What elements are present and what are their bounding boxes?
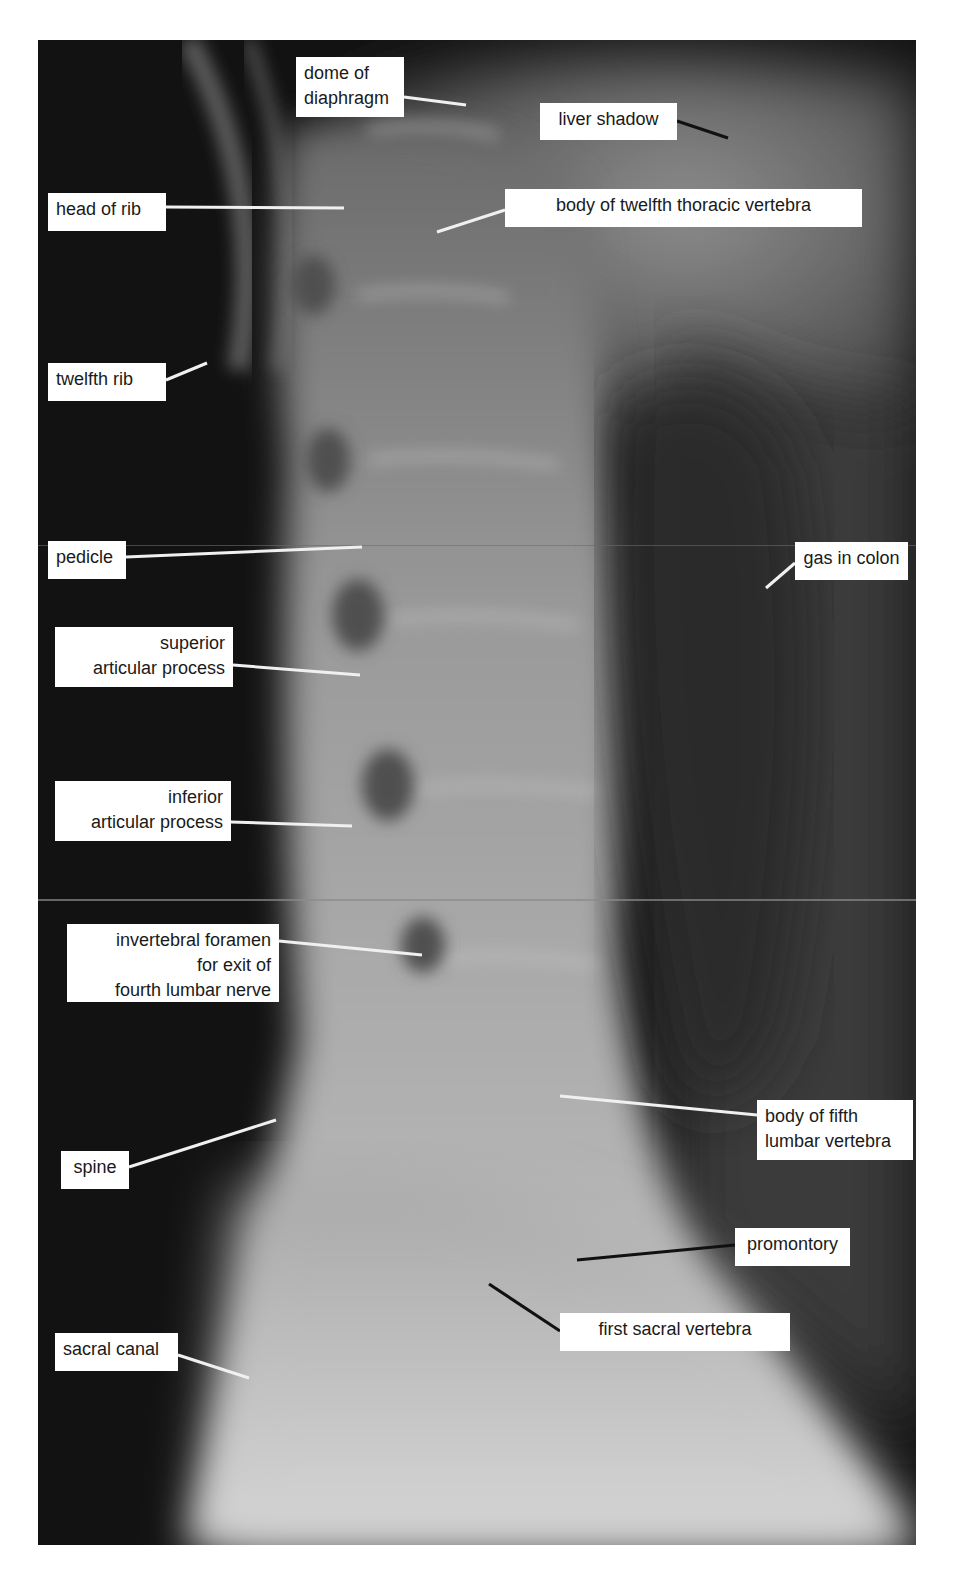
- label-twelfth-rib: twelfth rib: [48, 363, 166, 401]
- label-first-sacral-vertebra: first sacral vertebra: [560, 1313, 790, 1351]
- label-dome-of-diaphragm: dome of diaphragm: [296, 57, 404, 117]
- label-spine: spine: [61, 1151, 129, 1189]
- label-gas-in-colon: gas in colon: [795, 542, 908, 580]
- label-sacral-canal: sacral canal: [55, 1333, 178, 1371]
- label-body-of-fifth-lumbar-vertebra: body of fifth lumbar vertebra: [757, 1100, 913, 1160]
- label-intervertebral-foramen: invertebral foramen for exit of fourth l…: [67, 924, 279, 1002]
- label-superior-articular-process: superior articular process: [55, 627, 233, 687]
- label-liver-shadow: liver shadow: [540, 103, 677, 140]
- label-body-of-twelfth-thoracic-vertebra: body of twelfth thoracic vertebra: [505, 189, 862, 227]
- label-pedicle: pedicle: [48, 541, 126, 579]
- label-inferior-articular-process: inferior articular process: [55, 781, 231, 841]
- label-head-of-rib: head of rib: [48, 193, 166, 231]
- label-promontory: promontory: [735, 1228, 850, 1266]
